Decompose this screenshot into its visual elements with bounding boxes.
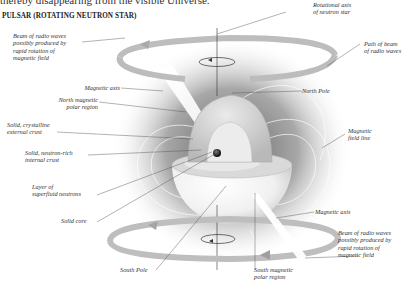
- label-magnetic-field-line: Magnetic field line: [348, 127, 372, 142]
- label-magnetic-axis-top: Magnetic axis: [72, 84, 120, 91]
- label-beam-top: Beam of radio waves possibly produced by…: [13, 32, 66, 61]
- label-path-of-beam: Path of beam of radio waves: [364, 40, 401, 55]
- label-beam-bottom: Beam of radio waves possibly produced by…: [338, 229, 391, 258]
- label-south-pole: South Pole: [120, 266, 147, 273]
- solid-core: [213, 149, 221, 157]
- label-magnetic-axis-bottom: Magnetic axis: [315, 208, 351, 215]
- label-neutron-rich-crust: Solid, neutron-rich internal crust: [25, 149, 73, 164]
- label-superfluid-layer: Layer of superfluid neutrons: [32, 183, 81, 198]
- label-solid-core: Solid core: [61, 217, 86, 224]
- label-rotational-axis: Rotational axis of neutron star: [313, 1, 351, 16]
- label-north-pole: North Pole: [302, 87, 330, 94]
- label-south-magnetic-polar-region: South magnetic polar region: [254, 266, 293, 281]
- label-north-magnetic-polar-region: North magnetic polar region: [40, 96, 98, 111]
- label-solid-crystalline-crust: Solid, crystalline external crust: [7, 121, 50, 136]
